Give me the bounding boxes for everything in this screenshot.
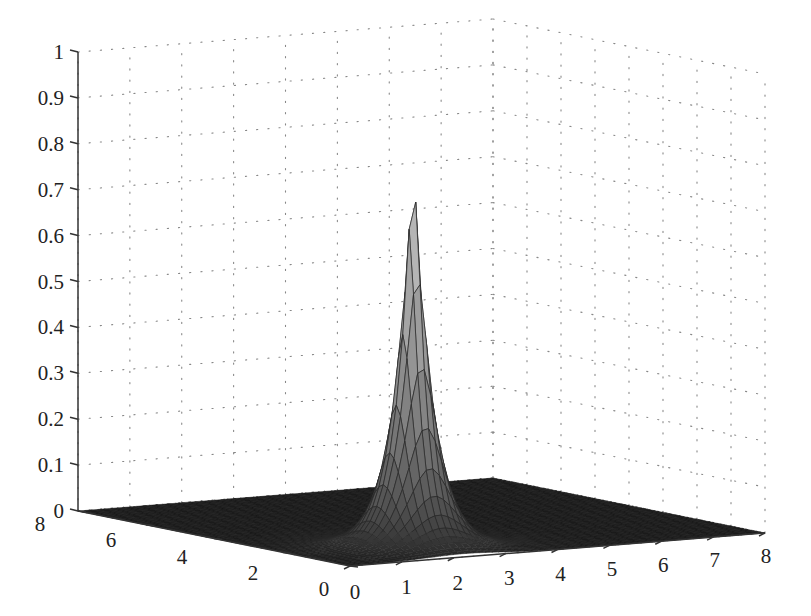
- z-tick-label: 0.6: [38, 224, 64, 248]
- z-tick: [70, 50, 78, 52]
- z-tick: [70, 371, 78, 373]
- z-tick: [70, 280, 78, 282]
- y-tick: [214, 539, 222, 540]
- grid-line: [78, 65, 493, 98]
- x-tick-label: 5: [607, 557, 618, 581]
- y-tick: [146, 525, 154, 526]
- x-tick-label: 1: [401, 575, 412, 599]
- grid-line: [78, 249, 493, 282]
- z-tick: [70, 463, 78, 465]
- z-tick: [70, 96, 78, 98]
- z-tick-label: 0.5: [38, 270, 64, 294]
- z-tick: [70, 417, 78, 419]
- grid-line: [78, 157, 493, 190]
- z-tick-label: 0.1: [38, 453, 64, 477]
- z-tick: [70, 325, 78, 327]
- x-tick-label: 8: [761, 544, 772, 568]
- grid-line: [78, 203, 493, 236]
- z-tick: [70, 234, 78, 236]
- grid-line: [493, 203, 765, 258]
- surface-mesh: [78, 202, 765, 566]
- z-tick-label: 0.7: [38, 178, 64, 202]
- y-tick-label: 8: [35, 512, 46, 536]
- z-tick: [70, 509, 78, 511]
- y-tick: [350, 566, 358, 567]
- z-tick-label: 0.2: [38, 407, 64, 431]
- grid-line: [78, 294, 493, 327]
- grid-line: [78, 340, 493, 373]
- z-tick-label: 1: [54, 40, 65, 64]
- z-tick: [70, 142, 78, 144]
- z-tick-label: 0: [54, 499, 65, 523]
- y-tick: [78, 511, 86, 512]
- y-tick-label: 4: [177, 545, 188, 569]
- z-tick-label: 0.9: [38, 86, 64, 110]
- y-tick-label: 2: [248, 561, 259, 585]
- y-tick-label: 0: [319, 577, 330, 601]
- grid-line: [493, 19, 765, 74]
- grid-line: [493, 386, 765, 441]
- x-tick-label: 6: [658, 553, 669, 577]
- grid-line: [493, 249, 765, 304]
- x-tick-label: 0: [350, 580, 361, 604]
- surface-plot: 00.10.20.30.40.50.60.70.80.9101234567802…: [0, 0, 811, 616]
- z-tick: [70, 188, 78, 190]
- x-tick-label: 4: [555, 562, 566, 586]
- grid-line: [78, 111, 493, 144]
- x-tick-label: 2: [453, 571, 464, 595]
- y-tick: [282, 552, 290, 553]
- y-tick-label: 6: [106, 528, 117, 552]
- grid-line: [493, 65, 765, 120]
- x-tick-label: 3: [504, 566, 515, 590]
- z-tick-label: 0.3: [38, 361, 64, 385]
- x-tick: [344, 566, 350, 569]
- x-tick-label: 7: [709, 548, 720, 572]
- z-tick-label: 0.4: [38, 315, 65, 339]
- z-tick-label: 0.8: [38, 132, 64, 156]
